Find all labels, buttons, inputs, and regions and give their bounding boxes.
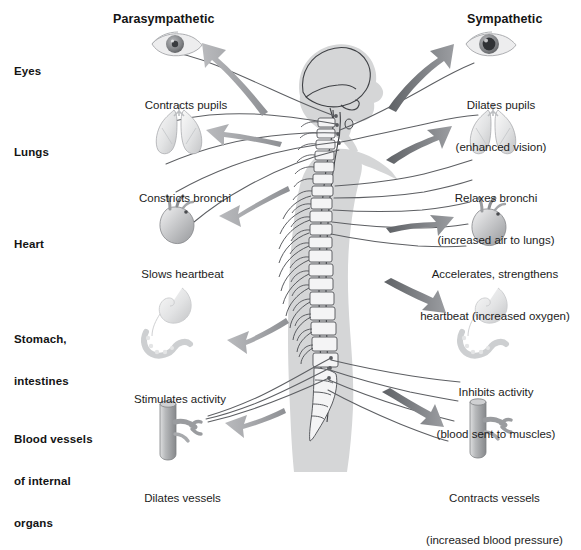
row-label-line: Blood vessels bbox=[14, 432, 93, 446]
caption-vessels-parasympathetic: Dilates vessels bbox=[90, 463, 275, 533]
row-label-line: organs bbox=[14, 516, 93, 530]
caption-line: Contracts vessels bbox=[408, 491, 581, 505]
caption-line: Accelerates, strengthens bbox=[409, 267, 581, 281]
caption-line: (blood sent to muscles) bbox=[411, 427, 581, 441]
arrow-to-stomach-left bbox=[227, 318, 289, 354]
caption-line: Relaxes bronchi bbox=[411, 191, 581, 205]
caption-line: Contracts pupils bbox=[96, 98, 276, 112]
caption-line: Dilates pupils bbox=[421, 98, 581, 112]
row-label-line: intestines bbox=[14, 374, 69, 388]
caption-heart-parasympathetic: Slows heartbeat bbox=[90, 239, 275, 309]
caption-line: (enhanced vision) bbox=[421, 140, 581, 154]
row-label-line: of internal bbox=[14, 474, 93, 488]
caption-line: Dilates vessels bbox=[90, 491, 275, 505]
caption-line: Inhibits activity bbox=[411, 385, 581, 399]
caption-stomach-parasympathetic: Stimulates activity bbox=[85, 364, 275, 434]
caption-line: Stimulates activity bbox=[85, 392, 275, 406]
caption-line: Slows heartbeat bbox=[90, 267, 275, 281]
row-label-line: Stomach, bbox=[14, 332, 69, 346]
torso-silhouette bbox=[288, 149, 398, 472]
row-label-blood-vessels: Blood vessels of internal organs bbox=[14, 404, 93, 550]
eye-constricted-icon bbox=[152, 32, 202, 56]
caption-eyes-parasympathetic: Contracts pupils bbox=[96, 70, 276, 140]
row-label-lungs: Lungs bbox=[14, 117, 49, 187]
eye-dilated-icon bbox=[466, 32, 516, 56]
row-label-line: Heart bbox=[14, 237, 44, 251]
caption-line: heartbeat (increased oxygen) bbox=[409, 309, 581, 323]
caption-stomach-sympathetic: Inhibits activity (blood sent to muscles… bbox=[411, 357, 581, 469]
caption-vessels-sympathetic: Contracts vessels (increased blood press… bbox=[408, 463, 581, 550]
caption-heart-sympathetic: Accelerates, strengthens heartbeat (incr… bbox=[409, 239, 581, 351]
row-label-line: Lungs bbox=[14, 145, 49, 159]
row-label-heart: Heart bbox=[14, 209, 44, 279]
row-label-eyes: Eyes bbox=[14, 36, 41, 106]
row-label-stomach-intestines: Stomach, intestines bbox=[14, 304, 69, 416]
column-heading-parasympathetic: Parasympathetic bbox=[113, 12, 215, 27]
caption-line: Constricts bronchi bbox=[90, 191, 280, 205]
row-label-line: Eyes bbox=[14, 64, 41, 78]
column-heading-sympathetic: Sympathetic bbox=[467, 12, 542, 27]
caption-lungs-parasympathetic: Constricts bronchi bbox=[90, 163, 280, 233]
caption-line: (increased blood pressure) bbox=[408, 533, 581, 547]
